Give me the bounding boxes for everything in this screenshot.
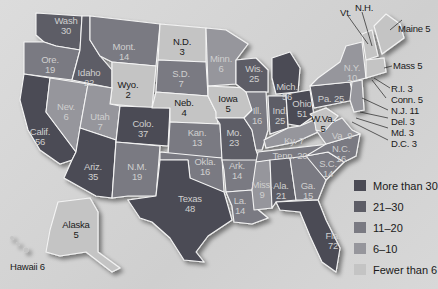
label-kan: Kan.13 bbox=[188, 128, 207, 148]
label-minn: Minn.6 bbox=[210, 54, 232, 74]
callout-nh: N.H. bbox=[355, 3, 373, 13]
state-maine bbox=[374, 14, 404, 54]
label-nc: N.C.16 bbox=[332, 144, 350, 164]
legend-item: 11–20 bbox=[354, 217, 438, 238]
legend: More than 30 21–30 11–20 6–10 Fewer than… bbox=[354, 175, 438, 280]
label-colo: Colo.37 bbox=[132, 119, 153, 139]
callout-maine: Maine 5 bbox=[398, 24, 430, 34]
label-ny: N.Y.10 bbox=[344, 63, 360, 83]
state-nj-md-de bbox=[350, 80, 364, 112]
label-ind: Ind.25 bbox=[272, 106, 287, 126]
legend-item: Fewer than 6 bbox=[354, 259, 438, 280]
legend-label: Fewer than 6 bbox=[373, 264, 437, 276]
label-miss: Miss.9 bbox=[251, 180, 272, 200]
callout-conn: Conn. 5 bbox=[391, 95, 423, 105]
legend-label: 11–20 bbox=[373, 222, 403, 234]
label-alaska: Alaska5 bbox=[62, 220, 89, 240]
legend-item: More than 30 bbox=[354, 175, 438, 196]
label-pa: Pa. 25 bbox=[318, 94, 344, 104]
label-fla: Fla.72 bbox=[325, 231, 340, 251]
label-ala: Ala.21 bbox=[273, 181, 289, 201]
label-utah: Utah7 bbox=[90, 112, 109, 132]
label-sd: S.D.7 bbox=[172, 69, 190, 89]
label-ariz: Ariz.35 bbox=[84, 162, 102, 182]
state-vt-nh bbox=[362, 30, 378, 60]
callout-dc: D.C. 3 bbox=[391, 139, 417, 149]
label-wva: W.Va.5 bbox=[311, 114, 335, 134]
label-ga: Ga.15 bbox=[301, 181, 316, 201]
label-la: La.14 bbox=[234, 196, 247, 216]
legend-swatch bbox=[354, 243, 366, 254]
hawaii-island bbox=[24, 248, 29, 253]
label-ky: Ky. 7 bbox=[284, 136, 304, 146]
callout-md: Md. 3 bbox=[391, 128, 414, 138]
label-nd: N.D.3 bbox=[173, 37, 191, 57]
label-nev: Nev.6 bbox=[57, 102, 75, 122]
legend-swatch bbox=[354, 201, 366, 212]
label-ill: Ill.16 bbox=[252, 106, 262, 126]
label-texas: Texas48 bbox=[178, 194, 202, 214]
legend-label: 21–30 bbox=[373, 201, 404, 213]
label-ore: Ore.19 bbox=[41, 55, 59, 75]
legend-item: 21–30 bbox=[354, 196, 438, 217]
label-idaho: Idaho22 bbox=[78, 68, 101, 88]
callout-mass: Mass 5 bbox=[393, 61, 422, 71]
state-mass-ri-conn bbox=[366, 58, 386, 78]
label-wash: Wash30 bbox=[54, 16, 77, 36]
label-mo: Mo.23 bbox=[226, 128, 241, 148]
label-ohio: Ohio51 bbox=[292, 99, 311, 119]
us-choropleth-map: Wash30 Ore.19 Calif.56 Idaho22 Nev.6 Mon… bbox=[0, 0, 438, 289]
label-nm: N.M.19 bbox=[127, 162, 146, 182]
label-ark: Ark.14 bbox=[229, 161, 245, 181]
callout-vt: Vt. bbox=[340, 8, 351, 18]
label-wis: Wis.25 bbox=[245, 64, 263, 84]
legend-swatch bbox=[354, 180, 366, 191]
label-mont: Mont.14 bbox=[113, 42, 136, 62]
callout-hawaii: Hawaii 6 bbox=[10, 262, 45, 272]
legend-label: More than 30 bbox=[373, 180, 438, 192]
label-okla: Okla.16 bbox=[194, 157, 215, 177]
legend-swatch bbox=[354, 222, 366, 233]
label-wyo: Wyo.2 bbox=[118, 80, 139, 100]
callout-del: Del. 3 bbox=[391, 117, 415, 127]
legend-swatch bbox=[354, 264, 366, 275]
callout-ri: R.I. 3 bbox=[391, 84, 413, 94]
hawaii-island bbox=[16, 242, 20, 246]
label-iowa: Iowa5 bbox=[218, 94, 237, 114]
legend-label: 6–10 bbox=[373, 243, 397, 255]
label-tenn: Tenn. 20 bbox=[273, 151, 308, 161]
hawaii-island bbox=[10, 236, 14, 240]
legend-item: 6–10 bbox=[354, 238, 438, 259]
label-neb: Neb.4 bbox=[174, 98, 193, 118]
callout-nj: N.J. 11 bbox=[391, 106, 419, 116]
label-calif: Calif.56 bbox=[30, 127, 50, 147]
